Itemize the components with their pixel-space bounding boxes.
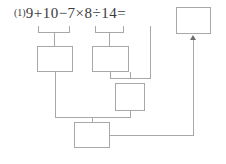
connector-14-down [150,26,151,78]
worksheet-canvas: (1)9+10−7×8÷14= [0,0,226,164]
arrowhead-into-answer-box [190,35,196,40]
answer-box[interactable] [176,7,211,34]
connector-brace1-to-box1 [54,33,55,46]
equation-line: (1)9+10−7×8÷14= [14,4,126,22]
step-box-1[interactable] [37,46,73,72]
connector-box4-to-right [110,135,194,136]
brace-7-times-8 [95,26,124,33]
connector-merge-to-box4 [55,117,131,118]
connector-brace2-to-box2 [109,33,110,46]
connector-up-to-answer [193,40,194,135]
step-box-4[interactable] [74,122,110,148]
connector-14-to-box3-horizontal [130,78,151,79]
step-box-3[interactable] [115,83,145,111]
connector-merge-stub-to-box4 [92,117,93,123]
problem-expression: 9+10−7×8÷14= [26,5,127,21]
step-box-2[interactable] [92,46,129,72]
problem-index: (1) [14,7,26,18]
brace-9-plus-10 [38,26,70,33]
connector-box2-to-junction [110,78,131,79]
connector-box1-down [55,72,56,117]
